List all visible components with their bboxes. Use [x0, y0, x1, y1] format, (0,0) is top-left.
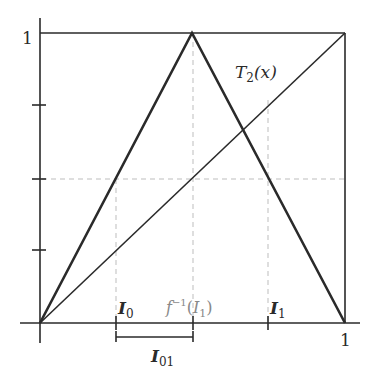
y-label-one: 1 — [22, 28, 33, 48]
curve-label: T2(x) — [235, 62, 277, 85]
I1-label: I1 — [269, 298, 286, 321]
preimage-label: f−1(I1) — [165, 297, 213, 320]
I0-label: I0 — [117, 298, 134, 321]
x-label-one: 1 — [340, 330, 351, 350]
tent-map-diagram: 1 1 T2(x) I0 I1 I01 f−1(I1) — [0, 0, 368, 383]
I01-label: I01 — [150, 346, 174, 369]
